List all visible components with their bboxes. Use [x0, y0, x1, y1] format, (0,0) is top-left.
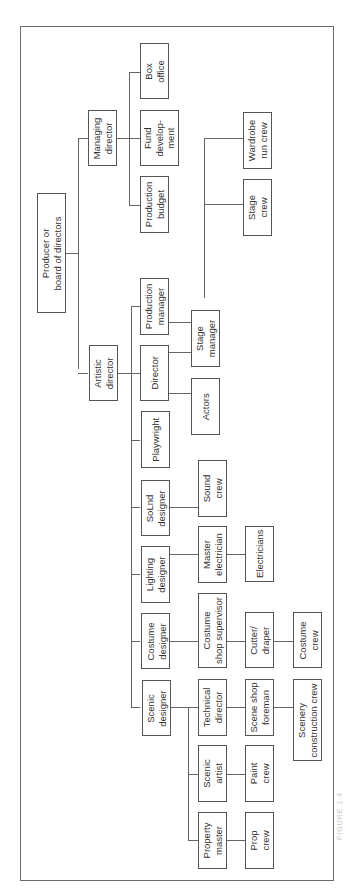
node-costume-crew: Costume crew — [293, 612, 322, 668]
node-label: Costume crew — [296, 621, 319, 659]
connector — [129, 205, 140, 206]
connector — [204, 138, 243, 139]
node-electricians: Electricians — [245, 526, 274, 582]
node-box-office: Box office — [140, 43, 169, 99]
node-label: Managing director — [91, 117, 114, 159]
connector — [226, 707, 245, 708]
node-label: Stage manager — [194, 320, 217, 358]
node-stage-manager: Stage manager — [191, 310, 220, 367]
figure-caption: FIGURE 1.4 — [336, 792, 343, 840]
node-wardrobe-run-crew: Wardrobe run crew — [243, 112, 272, 169]
node-lighting-designer: Lighting designer — [141, 546, 170, 603]
node-label: Lighting designer — [144, 556, 167, 592]
node-label: Costume shop supervisor — [201, 597, 224, 664]
node-artistic-director: Artistic director — [89, 345, 118, 401]
node-fund-development: Fund develop- ment — [140, 110, 179, 166]
node-prop-crew: Prop crew — [245, 812, 274, 869]
connector — [169, 507, 198, 508]
node-label: Cutter/ draper — [248, 626, 271, 655]
connector — [131, 507, 140, 508]
connector — [78, 138, 88, 139]
node-actors: Actors — [191, 378, 220, 435]
node-label: Scenery construction crew — [296, 683, 319, 757]
node-director: Director — [140, 345, 169, 401]
connector — [188, 774, 198, 775]
node-label: Paint crew — [248, 763, 271, 785]
connector — [169, 352, 191, 353]
connector — [226, 774, 245, 775]
connector — [169, 393, 191, 394]
node-technical-director: Technical director — [198, 679, 227, 736]
connector — [131, 707, 140, 708]
node-costume-shop-supervisor: Costume shop supervisor — [198, 593, 227, 668]
node-scenic-designer: Scenic designer — [142, 680, 171, 736]
node-label: Production manager — [143, 284, 166, 329]
node-master-electrician: Master electrician — [198, 526, 227, 583]
connector — [204, 138, 205, 298]
node-label: Stage crew — [246, 195, 269, 220]
node-label: Director — [149, 356, 161, 389]
node-label: Producer or board of directors — [40, 216, 63, 290]
node-label: Prop crew — [248, 830, 271, 850]
node-label: Production budget — [143, 182, 166, 227]
connector — [131, 440, 140, 441]
connector — [226, 641, 245, 642]
node-costume-designer: Costume designer — [141, 613, 170, 669]
node-scene-shop-foreman: Scene shop foreman — [245, 679, 274, 736]
node-label: Costume designer — [144, 622, 167, 660]
node-sound-designer: SoLnd designer — [141, 480, 170, 536]
connector — [169, 554, 198, 555]
connector — [131, 641, 140, 642]
connector — [129, 72, 140, 73]
node-stage-crew: Stage crew — [243, 179, 272, 236]
connector — [129, 72, 130, 205]
node-production-budget: Production budget — [140, 176, 169, 233]
node-label: Artistic director — [92, 357, 115, 389]
connector — [169, 322, 191, 323]
connector — [226, 554, 245, 555]
connector — [226, 840, 245, 841]
connector — [131, 574, 140, 575]
node-label: Wardrobe run crew — [246, 120, 269, 161]
connector — [117, 373, 140, 374]
node-playwright: Playwright — [141, 411, 170, 468]
connector — [65, 253, 78, 254]
connector — [188, 840, 198, 841]
connector — [169, 641, 198, 642]
node-label: Electricians — [254, 530, 266, 579]
node-property-master: Property master — [198, 812, 227, 869]
node-label: Scenic artist — [201, 759, 224, 788]
node-scenic-artist: Scenic artist — [198, 745, 227, 802]
node-paint-crew: Paint crew — [245, 745, 274, 802]
node-label: Sound crew — [201, 475, 224, 502]
node-scenery-construction-crew: Scenery construction crew — [293, 679, 322, 761]
node-producer: Producer or board of directors — [37, 193, 66, 313]
node-label: SoLnd designer — [144, 490, 167, 526]
node-label: Technical director — [201, 688, 224, 728]
connector — [169, 707, 188, 708]
connector — [78, 373, 88, 374]
node-production-manager: Production manager — [140, 278, 169, 335]
node-label: Scene shop foreman — [248, 682, 271, 732]
node-label: Box office — [143, 60, 166, 83]
node-label: Scenic designer — [145, 690, 168, 726]
node-managing-director: Managing director — [88, 110, 117, 166]
connector — [204, 204, 243, 205]
node-label: Fund develop- ment — [142, 120, 177, 156]
connector — [131, 306, 140, 307]
node-sound-crew: Sound crew — [198, 460, 227, 517]
node-label: Playwright — [150, 418, 162, 462]
node-label: Master electrician — [201, 533, 224, 576]
connector — [273, 707, 293, 708]
connector — [188, 707, 198, 708]
node-cutter-draper: Cutter/ draper — [245, 612, 274, 668]
node-label: Property master — [201, 823, 224, 859]
node-label: Actors — [200, 393, 212, 420]
connector — [273, 641, 293, 642]
connector — [78, 138, 79, 369]
